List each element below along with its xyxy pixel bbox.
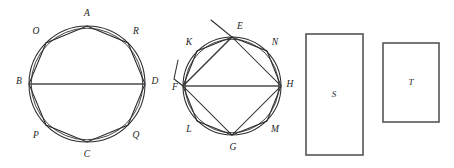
vertex-label-p: P xyxy=(32,130,39,140)
vertex-label-g: G xyxy=(230,142,237,152)
vertex-label-e: E xyxy=(236,21,243,31)
vertex-label-d: D xyxy=(151,76,159,86)
rectangle-s-label: S xyxy=(332,89,337,99)
panel-octagon-abcd: ARDQCPBO xyxy=(16,8,158,159)
vertex-label-l: L xyxy=(185,124,191,134)
vertex-label-n: N xyxy=(271,37,279,47)
panel-rect-t: T xyxy=(383,43,439,122)
vertex-label-f: F xyxy=(171,82,178,92)
vertex-label-c: C xyxy=(84,149,91,159)
vertex-label-m: M xyxy=(270,124,280,134)
vertex-label-k: K xyxy=(185,37,193,47)
vertex-label-r: R xyxy=(132,26,139,36)
geometry-figure-canvas: ARDQCPBO ENHMGLFK S T xyxy=(0,0,454,168)
vertex-label-h: H xyxy=(286,79,295,89)
panel-rect-s: S xyxy=(306,34,363,155)
panel-octagon-efgh: ENHMGLFK xyxy=(171,20,294,152)
vertex-label-b: B xyxy=(16,76,22,86)
vertex-label-q: Q xyxy=(133,130,140,140)
vertex-label-a: A xyxy=(83,8,90,18)
tilted-construction-square xyxy=(174,20,232,86)
vertex-label-o: O xyxy=(33,26,40,36)
